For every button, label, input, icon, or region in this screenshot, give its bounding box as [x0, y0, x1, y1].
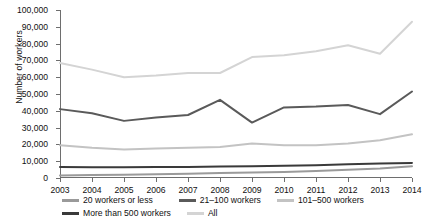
- x-tick: [188, 178, 189, 182]
- x-tick: [220, 178, 221, 182]
- y-tick-label: 80,000: [0, 39, 48, 49]
- y-tick-label: 20,000: [0, 139, 48, 149]
- x-tick: [412, 178, 413, 182]
- series-line: [60, 91, 412, 122]
- x-tick: [348, 178, 349, 182]
- y-tick-label: 0: [0, 173, 48, 183]
- y-tick-label: 30,000: [0, 123, 48, 133]
- chart-legend: 20 workers or less21–100 workers101–500 …: [62, 194, 414, 220]
- x-tick: [316, 178, 317, 182]
- y-tick-label: 60,000: [0, 72, 48, 82]
- legend-item[interactable]: 20 workers or less: [62, 196, 153, 205]
- y-tick-label: 10,000: [0, 156, 48, 166]
- legend-label: 101–500 workers: [298, 196, 364, 205]
- y-tick-label: 90,000: [0, 22, 48, 32]
- legend-label: 20 workers or less: [83, 196, 153, 205]
- series-line: [60, 163, 412, 167]
- x-tick: [156, 178, 157, 182]
- legend-item[interactable]: 101–500 workers: [277, 196, 364, 205]
- y-tick-label: 50,000: [0, 89, 48, 99]
- legend-label: 21–100 workers: [200, 196, 261, 205]
- legend-row: 20 workers or less21–100 workers101–500 …: [62, 194, 414, 207]
- x-tick: [252, 178, 253, 182]
- x-tick: [380, 178, 381, 182]
- legend-swatch-icon: [62, 212, 79, 214]
- y-tick-label: 40,000: [0, 106, 48, 116]
- legend-row: More than 500 workersAll: [62, 207, 414, 220]
- legend-swatch-icon: [277, 199, 294, 201]
- legend-swatch-icon: [62, 199, 79, 201]
- x-tick: [284, 178, 285, 182]
- series-lines: [60, 10, 412, 178]
- legend-item[interactable]: All: [187, 209, 218, 218]
- legend-swatch-icon: [179, 199, 196, 201]
- legend-item[interactable]: 21–100 workers: [179, 196, 261, 205]
- x-tick: [60, 178, 61, 182]
- legend-swatch-icon: [187, 212, 204, 214]
- y-tick-label: 70,000: [0, 55, 48, 65]
- series-line: [60, 134, 412, 149]
- legend-label: More than 500 workers: [83, 209, 171, 218]
- y-tick-label: 100,000: [0, 5, 48, 15]
- legend-item[interactable]: More than 500 workers: [62, 209, 171, 218]
- series-line: [60, 22, 412, 77]
- legend-label: All: [208, 209, 218, 218]
- x-tick: [124, 178, 125, 182]
- x-tick: [92, 178, 93, 182]
- plot-area: 010,00020,00030,00040,00050,00060,00070,…: [60, 10, 412, 178]
